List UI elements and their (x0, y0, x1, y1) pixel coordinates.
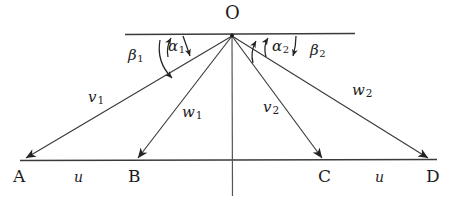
ray-ob-symbol: w (182, 103, 195, 121)
point-b-label: B (128, 168, 141, 185)
angle-beta-1-symbol: β (128, 46, 137, 64)
vertical-axis-line (232, 35, 233, 196)
ray-od-line (232, 36, 428, 158)
ray-od-label: w2 (352, 83, 373, 99)
segment-cd-label: u (375, 170, 384, 184)
angle-alpha-1-label: α1 (168, 39, 185, 55)
angle-beta-2-label: β2 (310, 43, 326, 59)
angle-alpha-2-arc (265, 38, 268, 57)
angle-alpha-2-symbol: α (272, 37, 282, 55)
apex-point (230, 34, 234, 38)
ray-od-symbol: w (352, 81, 365, 99)
angle-alpha-1-symbol: α (168, 37, 178, 55)
baseline (20, 160, 437, 161)
angle-alpha-2-arc-lower (293, 36, 296, 56)
diagram-svg (0, 0, 457, 203)
angle-alpha-1-subscript: 1 (178, 44, 185, 55)
ray-oc-subscript: 2 (271, 104, 279, 116)
angle-beta-2-subscript: 2 (319, 48, 326, 59)
ray-od-subscript: 2 (365, 87, 373, 99)
ray-oa-label: v1 (88, 90, 104, 106)
angle-beta-2-arc (252, 41, 256, 63)
ray-ob-label: w1 (182, 105, 203, 121)
ray-oa-subscript: 1 (96, 94, 104, 106)
point-c-label: C (318, 168, 331, 185)
point-a-label: A (13, 168, 25, 185)
angle-alpha-2-label: α2 (272, 39, 289, 55)
angle-beta-1-label: β1 (128, 48, 144, 64)
angle-beta-1-subscript: 1 (137, 53, 144, 64)
segment-ab-label: u (74, 170, 83, 184)
ray-oc-label: v2 (263, 100, 279, 116)
point-d-label: D (426, 168, 440, 185)
ray-ob-subscript: 1 (195, 109, 203, 121)
top-reference-line (125, 34, 355, 35)
angle-beta-2-symbol: β (310, 41, 319, 59)
diagram-canvas: O β1 α1 α2 β2 v1 w1 v2 w2 A B C D u u (0, 0, 457, 203)
apex-label: O (225, 4, 240, 22)
angle-alpha-2-subscript: 2 (282, 44, 289, 55)
